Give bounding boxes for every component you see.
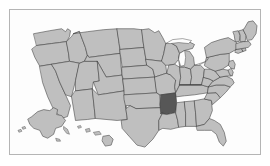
state-arkansas[interactable]	[160, 93, 177, 115]
state-vermont[interactable]	[233, 31, 240, 42]
map-frame	[9, 9, 261, 155]
state-south-dakota[interactable]	[120, 47, 147, 67]
alaska-aleutian-3	[56, 138, 61, 141]
state-louisiana[interactable]	[159, 113, 179, 131]
hawaii-oahu	[85, 128, 90, 132]
hawaii-molokai-maui	[93, 131, 101, 135]
state-north-dakota[interactable]	[117, 29, 144, 50]
alaska-aleutian-1	[22, 126, 26, 129]
state-minnesota[interactable]	[142, 29, 166, 62]
hawaii-big-island[interactable]	[102, 135, 113, 146]
alaska-southeast-panhandle	[64, 126, 70, 134]
state-massachusetts[interactable]	[236, 42, 251, 50]
state-kansas[interactable]	[123, 77, 157, 95]
hawaii-kauai	[77, 125, 81, 128]
state-indiana[interactable]	[180, 67, 192, 85]
state-tennessee[interactable]	[176, 85, 209, 97]
figure-root: Arkansas United States	[0, 0, 270, 166]
us-map[interactable]	[10, 10, 260, 154]
state-texas[interactable]	[121, 106, 163, 147]
state-arizona[interactable]	[72, 89, 96, 121]
alaska-aleutian-2	[18, 129, 22, 132]
